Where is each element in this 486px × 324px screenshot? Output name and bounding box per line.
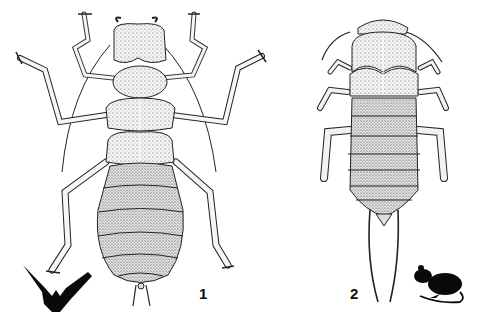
- specimen-label-2: 2: [350, 285, 358, 302]
- mouse-icon: [414, 265, 463, 302]
- specimen-1-insect: [16, 14, 266, 306]
- specimen-2-insect: [320, 20, 446, 302]
- specimen-label-1: 1: [199, 285, 207, 302]
- illustration-plate: 1 2: [0, 0, 486, 324]
